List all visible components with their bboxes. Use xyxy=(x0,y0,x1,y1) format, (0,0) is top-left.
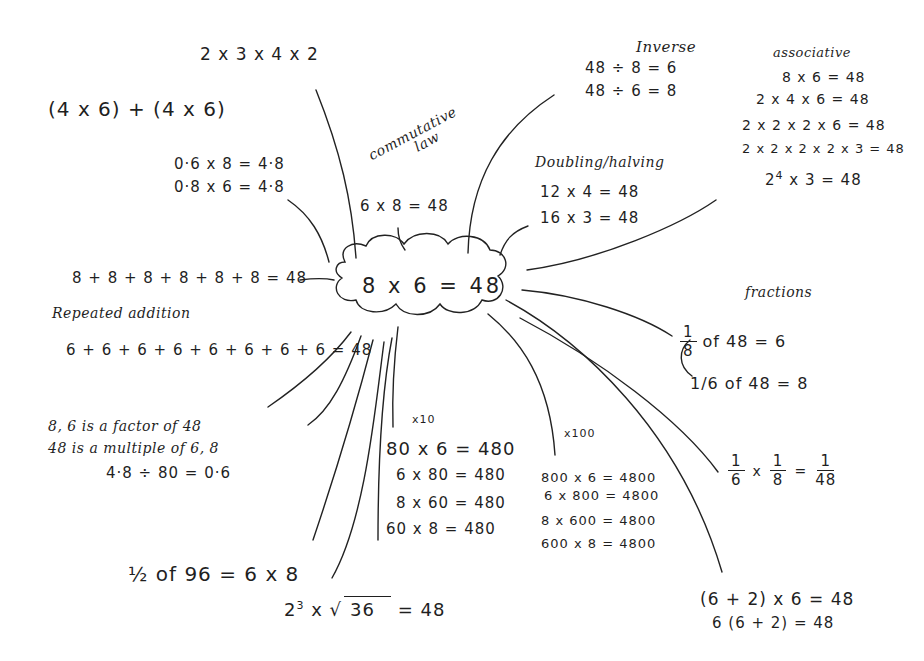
power-exponent: 4 xyxy=(776,169,784,182)
associative-line-4: 2 x 2 x 2 x 2 x 3 = 48 xyxy=(742,142,905,155)
distributive-sum: (4 x 6) + (4 x 6) xyxy=(48,99,226,119)
associative-power-line: 24 x 3 = 48 xyxy=(765,170,862,188)
fraction-denominator: 8 xyxy=(773,471,784,488)
decimal-line-2: 0·8 x 6 = 4·8 xyxy=(174,180,285,195)
fraction-sixth-rest: of 48 = 8 xyxy=(725,374,809,393)
power-base: 2 xyxy=(284,599,296,620)
decimal-line-1: 0·6 x 8 = 4·8 xyxy=(174,157,285,172)
times-hundred-line-3: 8 x 600 = 4800 xyxy=(541,514,656,527)
power-rest: x 3 = 48 xyxy=(784,171,862,189)
times-hundred-line-2: 6 x 800 = 4800 xyxy=(544,489,659,502)
repeated-addition-eights: 8 + 8 + 8 + 8 + 8 + 8 = 48 xyxy=(72,271,307,286)
fraction-denominator: 8 xyxy=(683,342,694,359)
fraction-numerator: 1 xyxy=(680,325,697,342)
fraction-one-forty-eighth: 1 48 xyxy=(815,454,836,488)
fraction-eighth: 1 8 of 48 = 6 xyxy=(680,325,786,359)
factor-statement: 8, 6 is a factor of 48 xyxy=(48,419,202,433)
inverse-label: Inverse xyxy=(636,40,696,55)
doubling-halving-label: Doubling/halving xyxy=(535,155,665,169)
associative-line-1: 8 x 6 = 48 xyxy=(782,70,865,84)
fraction-one-eighth: 1 8 xyxy=(770,454,787,488)
sqrt-symbol: √ xyxy=(330,599,342,620)
brackets-line-1: (6 + 2) x 6 = 48 xyxy=(700,591,854,608)
fraction-numerator: 1 xyxy=(770,454,787,471)
times-ten-line-4: 60 x 8 = 480 xyxy=(386,522,496,537)
fraction-one-eighth: 1 8 xyxy=(680,325,697,359)
associative-line-3: 2 x 2 x 2 x 6 = 48 xyxy=(742,118,886,132)
half-of-ninety-six: ½ of 96 = 6 x 8 xyxy=(128,564,299,584)
fraction-sixth-prefix: 1/6 xyxy=(690,374,719,393)
fraction-eighth-rest: of 48 = 6 xyxy=(703,334,787,350)
times-ten-line-2: 6 x 80 = 480 xyxy=(396,468,506,483)
inverse-line-1: 48 ÷ 8 = 6 xyxy=(585,61,677,76)
doubling-line-2: 16 x 3 = 48 xyxy=(540,211,639,226)
equals-sign: = xyxy=(794,464,807,478)
times-hundred-line-4: 600 x 8 = 4800 xyxy=(541,537,656,550)
repeated-addition-label: Repeated addition xyxy=(52,306,191,320)
fraction-product: 1 6 x 1 8 = 1 48 xyxy=(728,454,836,488)
fraction-numerator: 1 xyxy=(728,454,745,471)
decimal-division: 4·8 ÷ 80 = 0·6 xyxy=(106,466,231,481)
times-ten-line-3: 8 x 60 = 480 xyxy=(396,496,506,511)
fraction-denominator: 6 xyxy=(731,471,742,488)
brackets-line-2: 6 (6 + 2) = 48 xyxy=(712,616,834,631)
power-base: 2 xyxy=(765,171,776,189)
fractions-label: fractions xyxy=(745,285,812,299)
fraction-sixth: 1/6 of 48 = 8 xyxy=(690,376,808,392)
repeated-addition-sixes: 6 + 6 + 6 + 6 + 6 + 6 + 6 + 6 = 48 xyxy=(66,343,372,358)
fraction-one-sixth: 1 6 xyxy=(728,454,745,488)
associative-label: associative xyxy=(773,46,851,59)
power-root-result: = 48 xyxy=(398,599,446,620)
fraction-denominator: 48 xyxy=(815,471,836,488)
times-ten-label: x10 xyxy=(412,414,436,425)
times-hundred-line-1: 800 x 6 = 4800 xyxy=(541,471,656,484)
multiple-statement: 48 is a multiple of 6, 8 xyxy=(48,441,219,455)
factors-product: 2 x 3 x 4 x 2 xyxy=(200,46,319,63)
sqrt-radicand: 36 xyxy=(344,596,391,620)
commutative-equation: 6 x 8 = 48 xyxy=(360,199,449,214)
power-root-equation: 23 x √36 = 48 xyxy=(284,600,445,619)
associative-line-2: 2 x 4 x 6 = 48 xyxy=(756,92,870,106)
center-equation: 8 x 6 = 48 xyxy=(362,276,502,297)
times-ten-line-1: 80 x 6 = 480 xyxy=(386,440,515,458)
fraction-numerator: 1 xyxy=(817,454,834,471)
multiply-sign: x xyxy=(753,464,762,478)
multiply-sign: x xyxy=(304,599,329,620)
doubling-line-1: 12 x 4 = 48 xyxy=(540,185,639,200)
inverse-line-2: 48 ÷ 6 = 8 xyxy=(585,84,677,99)
times-hundred-label: x100 xyxy=(564,428,596,439)
